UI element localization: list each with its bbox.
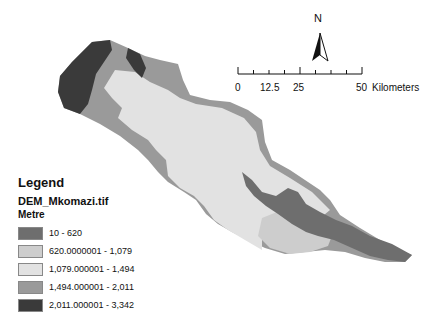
legend-title: Legend bbox=[18, 175, 135, 190]
legend-label: 10 - 620 bbox=[49, 228, 82, 238]
scale-tick-25: 25 bbox=[293, 82, 304, 93]
legend-swatch bbox=[18, 299, 43, 312]
legend-swatch bbox=[18, 263, 43, 276]
legend-item: 2,011.000001 - 3,342 bbox=[18, 296, 135, 314]
legend-label: 1,494.000001 - 2,011 bbox=[49, 282, 134, 292]
north-label: N bbox=[314, 12, 322, 24]
scale-tick-12-5: 12.5 bbox=[260, 82, 279, 93]
legend-item: 620.0000001 - 1,079 bbox=[18, 242, 135, 260]
legend-unit: Metre bbox=[18, 209, 135, 220]
legend-item: 10 - 620 bbox=[18, 224, 135, 242]
scale-unit: Kilometers bbox=[372, 82, 419, 93]
legend-label: 1,079.000001 - 1,494 bbox=[49, 264, 135, 274]
legend-item: 1,079.000001 - 1,494 bbox=[18, 260, 135, 278]
scale-tick-50: 50 bbox=[356, 82, 367, 93]
legend-swatch bbox=[18, 281, 43, 294]
legend-item: 1,494.000001 - 2,011 bbox=[18, 278, 135, 296]
legend: Legend DEM_Mkomazi.tif Metre 10 - 620 62… bbox=[18, 175, 135, 314]
legend-swatch bbox=[18, 245, 43, 258]
legend-layer-name: DEM_Mkomazi.tif bbox=[18, 195, 135, 207]
legend-label: 2,011.000001 - 3,342 bbox=[49, 300, 134, 310]
scale-tick-0: 0 bbox=[235, 82, 241, 93]
legend-label: 620.0000001 - 1,079 bbox=[49, 246, 132, 256]
legend-swatch bbox=[18, 227, 43, 240]
